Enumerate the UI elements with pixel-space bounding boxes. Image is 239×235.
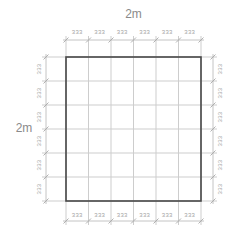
dimension-label-left: 333: [36, 87, 42, 98]
dimension-label-top: 333: [139, 29, 150, 35]
dimension-label-right: 333: [217, 159, 223, 170]
dimension-label-top: 333: [117, 29, 128, 35]
dimension-label-bottom: 333: [139, 212, 150, 218]
dimension-label-right: 333: [217, 111, 223, 122]
dimension-label-bottom: 333: [162, 212, 173, 218]
dimension-label-top: 333: [94, 29, 105, 35]
dimension-label-left: 333: [36, 111, 42, 122]
dimension-label-right: 333: [217, 87, 223, 98]
dimension-label-left: 333: [36, 159, 42, 170]
dimension-label-right: 333: [217, 63, 223, 74]
dimension-label-top: 333: [72, 29, 83, 35]
dimension-label-bottom: 333: [184, 212, 195, 218]
dimension-label-left: 333: [36, 183, 42, 194]
dimension-diagram: 2m 2m 3333333333333333333333333333333333…: [0, 0, 239, 235]
dimension-label-top: 333: [184, 29, 195, 35]
dimension-label-bottom: 333: [72, 212, 83, 218]
dimension-label-bottom: 333: [117, 212, 128, 218]
dimension-label-right: 333: [217, 135, 223, 146]
dimension-label-top: 333: [162, 29, 173, 35]
dimension-label-right: 333: [217, 183, 223, 194]
dimension-label-bottom: 333: [94, 212, 105, 218]
grid-diagram-svg: 3333333333333333333333333333333333333333…: [0, 0, 239, 235]
dimension-label-left: 333: [36, 135, 42, 146]
dimension-label-left: 333: [36, 63, 42, 74]
